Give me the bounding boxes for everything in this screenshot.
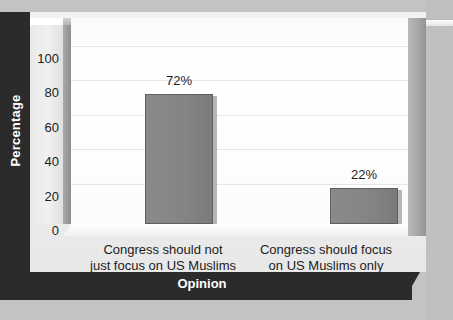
gridline-20	[71, 184, 408, 185]
gridline-100	[71, 46, 408, 47]
plot-area: 72% 22%	[71, 18, 408, 224]
plot-right-wall	[408, 18, 426, 236]
chart-panel: 100 80 60 40 20 0 72% 22%	[30, 12, 426, 272]
bar-value-label-1: 72%	[145, 74, 213, 87]
gridline-40	[71, 149, 408, 150]
plot-floor-left-corner	[63, 224, 71, 236]
x-category-label-2: Congress should focus on US Muslims only	[226, 242, 426, 275]
y-tick-label-40: 40	[45, 155, 59, 168]
y-axis-title-wrap: Percentage	[0, 55, 30, 205]
bar-congress-should-focus-only[interactable]	[330, 188, 398, 224]
gridline-60	[71, 115, 408, 116]
x-axis-title: Opinion	[0, 276, 404, 291]
tick-column-top-bevel	[30, 18, 63, 25]
y-tick-label-100: 100	[37, 52, 59, 65]
x-axis-title-band-corner	[404, 272, 420, 300]
bar-value-label-2: 22%	[330, 168, 398, 181]
y-axis-title: Percentage	[8, 94, 23, 166]
plot-floor	[71, 224, 408, 236]
x-category-label-2-line-1: Congress should focus	[226, 242, 426, 258]
y-tick-label-0: 0	[52, 224, 59, 237]
y-axis-wall	[63, 25, 71, 224]
y-tick-label-60: 60	[45, 121, 59, 134]
axis-wall-top-bevel	[63, 18, 71, 25]
y-axis-tick-column: 100 80 60 40 20 0	[30, 25, 63, 224]
bar-congress-should-not-just-focus[interactable]	[145, 94, 213, 224]
y-tick-label-80: 80	[45, 86, 59, 99]
y-tick-label-20: 20	[45, 190, 59, 203]
gridline-80	[71, 80, 408, 81]
